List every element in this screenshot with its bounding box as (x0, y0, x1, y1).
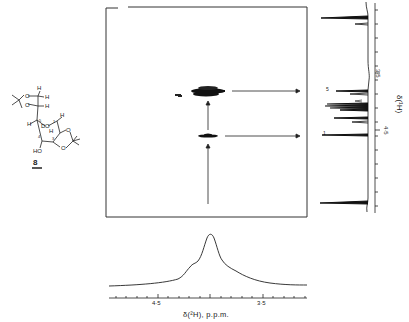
x-tick-label-4-5: 4·5 (152, 300, 161, 306)
svg-text:H: H (27, 121, 31, 127)
cross-peak-weak (175, 94, 182, 97)
peak-label-5: 5 (326, 86, 329, 92)
cross-peak-1 (198, 134, 218, 138)
correlation-arrows (206, 89, 300, 204)
y-tick-label-3-5: 3·5 (375, 69, 381, 78)
svg-text:O: O (25, 93, 30, 99)
spectrum-1h (320, 2, 369, 212)
figure-canvas: O O H H H O H O O H D H HO 5 4 3 1 (0, 0, 409, 322)
svg-text:H: H (37, 85, 41, 91)
svg-text:O: O (61, 145, 66, 151)
cross-peak-5 (191, 86, 225, 97)
compound-number: 8 (33, 158, 37, 167)
x-tick-label-3-5: 3·5 (257, 300, 266, 306)
svg-text:D: D (41, 123, 46, 129)
x-axis (109, 294, 307, 298)
svg-text:HO: HO (33, 148, 42, 154)
svg-text:H: H (45, 103, 49, 109)
svg-text:H: H (45, 94, 49, 100)
projection-2h (109, 234, 307, 286)
svg-text:O: O (66, 127, 71, 133)
svg-text:H: H (60, 112, 64, 118)
y-axis-label: δ(¹H) (395, 95, 404, 113)
y-tick-label-4-5: 4·5 (383, 126, 389, 135)
svg-text:O: O (25, 102, 30, 108)
x-axis-label: δ(²H), p.p.m. (183, 310, 229, 319)
structure-labels: O O H H H O H O O H D H HO 5 4 3 1 (25, 85, 71, 154)
svg-text:H: H (49, 128, 53, 134)
contour-plot (106, 7, 307, 217)
peak-label-1: 1 (323, 130, 326, 136)
y-axis (375, 3, 380, 213)
